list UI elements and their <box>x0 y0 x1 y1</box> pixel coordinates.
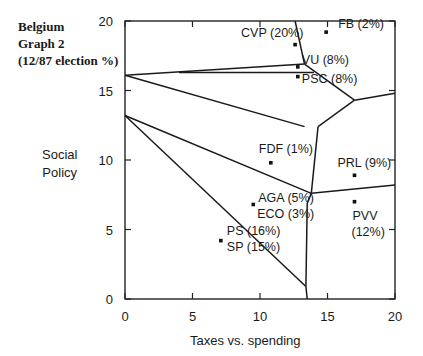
y-tick-label: 5 <box>106 223 113 238</box>
y-tick-label: 15 <box>99 84 113 99</box>
party-label-pvv: PVV <box>353 209 379 223</box>
x-tick-label: 10 <box>253 309 267 324</box>
party-label-cvp: CVP (20%) <box>241 26 303 40</box>
party-label-prl: PRL (9%) <box>338 156 392 170</box>
party-label-ps-sp: PS (16%) <box>227 224 281 238</box>
party-point-vu <box>296 65 300 69</box>
region-boundary-line <box>355 93 396 100</box>
y-tick-label: 0 <box>106 292 113 307</box>
x-tick-label: 0 <box>121 309 128 324</box>
party-label-fdf: FDF (1%) <box>259 142 313 156</box>
party-point-prl <box>353 173 357 177</box>
party-point-cvp <box>293 43 297 47</box>
party-point-fb <box>324 30 328 34</box>
region-boundary-line <box>125 64 305 75</box>
party-label-vu: VU (8%) <box>302 53 349 67</box>
region-boundary-line <box>311 127 318 194</box>
party-label-aga-eco: AGA (5%) <box>258 191 314 205</box>
x-tick-label: 5 <box>189 309 196 324</box>
x-tick-label: 20 <box>388 309 402 324</box>
region-boundary-line <box>306 286 307 299</box>
region-boundary-line <box>318 100 354 126</box>
x-tick-label: 15 <box>320 309 334 324</box>
plot-area: 0510152005101520CVP (20%)FB (2%)VU (8%)P… <box>0 0 423 356</box>
party-label-fb: FB (2%) <box>338 17 384 31</box>
party-point-pvv <box>353 200 357 204</box>
party-label-ps-sp: SP (15%) <box>227 240 280 254</box>
region-boundary-line <box>311 185 395 193</box>
party-label-pvv: (12%) <box>352 225 385 239</box>
party-label-aga-eco: ECO (3%) <box>257 207 314 221</box>
region-boundary-line <box>125 75 305 126</box>
party-point-ps-sp <box>219 239 223 243</box>
y-tick-label: 20 <box>99 14 113 29</box>
y-tick-label: 10 <box>99 153 113 168</box>
party-point-aga-eco <box>251 203 255 207</box>
party-label-psc: PSC (8%) <box>302 72 358 86</box>
party-point-fdf <box>269 161 273 165</box>
party-point-psc <box>296 75 300 79</box>
